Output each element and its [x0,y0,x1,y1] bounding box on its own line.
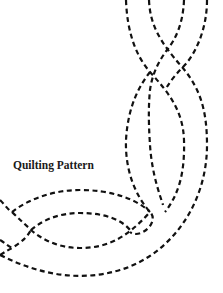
quilting-pattern-figure: Quilting Pattern [0,0,223,293]
strand-c [149,0,184,205]
figure-title: Quilting Pattern [13,159,94,171]
stitch-lines [0,0,223,293]
lower-left-tail [0,230,31,255]
lens-inner-upper [31,213,130,230]
lens-outer-upper [0,190,150,212]
strand-b [0,0,207,276]
